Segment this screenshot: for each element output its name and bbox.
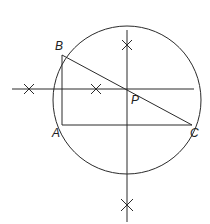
label-c: C <box>190 126 199 140</box>
label-a: A <box>51 126 60 140</box>
label-b: B <box>55 39 63 53</box>
label-p: P <box>131 93 139 107</box>
circumcircle-construction-diagram: B A C P <box>0 0 210 224</box>
